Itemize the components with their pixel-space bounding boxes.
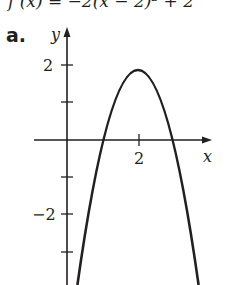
y-tick-label-neg2: −2 [32, 205, 56, 224]
y-axis-label: y [50, 25, 61, 44]
x-axis-arrow-icon [202, 137, 212, 144]
y-axis-arrow-icon [64, 27, 71, 37]
x-tick-label-2: 2 [134, 149, 144, 168]
y-tick-label-2: 2 [43, 56, 53, 75]
x-axis-label: x [203, 147, 212, 166]
parabola-curve [77, 70, 198, 285]
parabola-graph: y 2 −2 2 x [0, 0, 228, 285]
